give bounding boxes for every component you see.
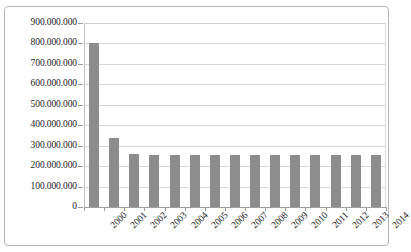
x-axis-tick	[84, 207, 85, 211]
bar[interactable]	[351, 155, 361, 207]
x-axis-tick-label: 2009	[290, 210, 310, 230]
y-axis-tick-label: 400.000.000	[5, 120, 77, 129]
bar-slot	[305, 23, 325, 207]
bar-slot	[104, 23, 124, 207]
y-axis-tick	[78, 23, 83, 24]
y-axis-tick	[78, 43, 83, 44]
y-axis-tick-label: 700.000.000	[5, 59, 77, 68]
y-axis-tick-label: 300.000.000	[5, 141, 77, 150]
bar[interactable]	[109, 138, 119, 208]
x-axis-tick-label: 2006	[229, 210, 249, 230]
y-axis-tick-label: 800.000.000	[5, 38, 77, 47]
bar-slot	[205, 23, 225, 207]
bar-slot	[366, 23, 386, 207]
y-axis-tick	[78, 207, 83, 208]
bar[interactable]	[210, 155, 220, 207]
bar[interactable]	[190, 155, 200, 207]
bar-slot	[346, 23, 366, 207]
y-axis-tick-label: 600.000.000	[5, 79, 77, 88]
bar[interactable]	[371, 155, 381, 207]
x-axis-tick	[144, 207, 145, 211]
y-axis-tick-label: 0	[5, 202, 77, 211]
x-axis-tick	[386, 207, 387, 211]
bar[interactable]	[129, 154, 139, 207]
y-axis-tick	[78, 187, 83, 188]
x-axis-tick	[326, 207, 327, 211]
y-axis: 0100.000.000200.000.000300.000.000400.00…	[5, 7, 77, 252]
x-axis-tick-label: 2002	[149, 210, 169, 230]
x-axis-tick-label: 2013	[370, 210, 390, 230]
y-axis-tick-label: 500.000.000	[5, 100, 77, 109]
chart-frame: 0100.000.000200.000.000300.000.000400.00…	[4, 6, 389, 246]
bar-slot	[225, 23, 245, 207]
bar-slot	[285, 23, 305, 207]
x-axis-tick-label: 2003	[169, 210, 189, 230]
bar-slot	[245, 23, 265, 207]
bar[interactable]	[170, 155, 180, 207]
x-axis-tick	[205, 207, 206, 211]
x-axis-tick-label: 2012	[350, 210, 370, 230]
bar-slot	[265, 23, 285, 207]
x-axis-tick-label: 2004	[189, 210, 209, 230]
bar-slot	[326, 23, 346, 207]
x-axis-tick	[285, 207, 286, 211]
y-axis-tick	[78, 166, 83, 167]
x-axis-tick	[124, 207, 125, 211]
y-axis-tick	[78, 146, 83, 147]
x-axis-tick-label: 2011	[330, 210, 350, 230]
x-axis-tick-label: 2010	[310, 210, 330, 230]
x-axis-tick	[366, 207, 367, 211]
y-axis-tick-label: 100.000.000	[5, 182, 77, 191]
x-axis-tick-label: 2014	[390, 210, 410, 230]
bar[interactable]	[290, 155, 300, 207]
bar-slot	[165, 23, 185, 207]
bar-slot	[185, 23, 205, 207]
y-axis-tick-label: 900.000.000	[5, 18, 77, 27]
x-axis-tick-label: 2005	[209, 210, 229, 230]
bar[interactable]	[230, 155, 240, 207]
bar[interactable]	[149, 155, 159, 207]
y-axis-tick	[78, 105, 83, 106]
y-axis-tick	[78, 64, 83, 65]
bar[interactable]	[250, 155, 260, 207]
bar[interactable]	[310, 155, 320, 207]
bar[interactable]	[270, 155, 280, 207]
y-axis-tick	[78, 84, 83, 85]
x-axis-tick-label: 2008	[270, 210, 290, 230]
x-axis-tick	[346, 207, 347, 211]
bar-series	[84, 23, 386, 207]
x-axis: 2000200120022003200420052006200720082009…	[84, 207, 386, 252]
bar-slot	[144, 23, 164, 207]
x-axis-tick	[305, 207, 306, 211]
bar[interactable]	[331, 155, 341, 207]
bar[interactable]	[89, 43, 99, 207]
x-axis-tick	[185, 207, 186, 211]
y-axis-tick-label: 200.000.000	[5, 161, 77, 170]
bar-slot	[84, 23, 104, 207]
x-axis-tick	[245, 207, 246, 211]
y-axis-tick	[78, 125, 83, 126]
x-axis-tick-label: 2000	[109, 210, 129, 230]
x-axis-tick-label: 2001	[129, 210, 149, 230]
x-axis-tick	[165, 207, 166, 211]
x-axis-tick	[265, 207, 266, 211]
bar-slot	[124, 23, 144, 207]
x-axis-tick	[104, 207, 105, 211]
x-axis-tick-label: 2007	[249, 210, 269, 230]
x-axis-tick	[225, 207, 226, 211]
